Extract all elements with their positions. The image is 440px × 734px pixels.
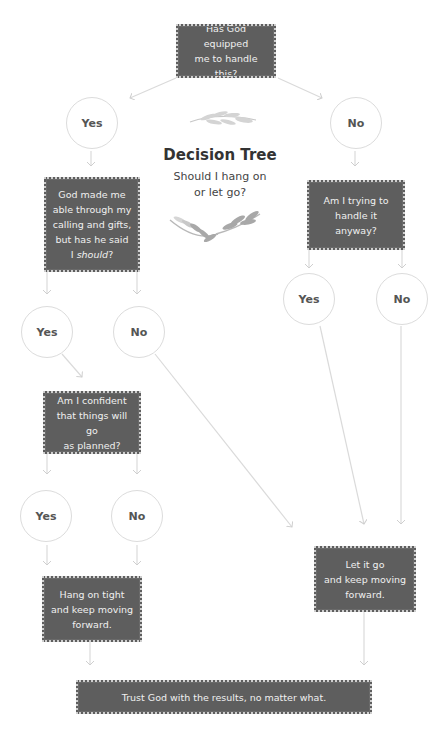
answer-no-2-right: No [376, 273, 428, 325]
q-calling-line4: but has he said [56, 234, 129, 245]
answer-yes-2-left: Yes [21, 306, 73, 358]
subtitle-line1: Should I hang on [174, 170, 267, 183]
answer-no-2-left-label: No [131, 326, 148, 339]
root-question-box: Has God equippedme to handle this? [176, 24, 276, 78]
question-anyway-box: Am I trying tohandle it anyway? [307, 180, 405, 250]
q-calling-line5-suffix: ? [108, 249, 113, 260]
answer-no-2-right-label: No [394, 293, 411, 306]
answer-no-1-label: No [348, 117, 365, 130]
q-calling-line3: calling and gifts, [53, 219, 131, 230]
let-go-line2: and keep moving [324, 574, 406, 585]
answer-yes-2-right: Yes [283, 273, 335, 325]
question-confident-box: Am I confident that things will go as pl… [43, 391, 141, 454]
q-confident-line3: as planned? [63, 440, 120, 451]
diagram-subtitle: Should I hang on or let go? [140, 169, 300, 201]
answer-no-3: No [111, 490, 163, 542]
answer-yes-3-label: Yes [36, 510, 57, 523]
answer-no-2-left: No [113, 306, 165, 358]
q-calling-line5-emphasis: should [77, 249, 108, 260]
answer-no-3-label: No [129, 510, 146, 523]
q-confident-line2: that things will go [57, 410, 127, 436]
q-confident-line1: Am I confident [57, 395, 126, 406]
question-calling-box: God made me able through my calling and … [44, 177, 140, 272]
q-anyway-line2: handle it anyway? [335, 210, 377, 236]
final-conclusion-text: Trust God with the results, no matter wh… [122, 690, 326, 705]
q-calling-line2: able through my [53, 204, 132, 215]
answer-yes-1: Yes [66, 97, 118, 149]
hang-on-line2: and keep moving [51, 604, 133, 615]
hang-on-line1: Hang on tight [59, 589, 124, 600]
root-question-line1: Has God equipped [204, 23, 248, 49]
leaf-decoration-bottom [166, 210, 262, 250]
answer-yes-2-left-label: Yes [37, 326, 58, 339]
answer-yes-1-label: Yes [82, 117, 103, 130]
outcome-hang-on-box: Hang on tight and keep moving forward. [42, 576, 142, 642]
answer-yes-2-right-label: Yes [299, 293, 320, 306]
root-question-line2: me to handle this? [194, 53, 257, 79]
answer-no-1: No [330, 97, 382, 149]
let-go-line1: Let it go [346, 559, 385, 570]
leaf-decoration-top [188, 108, 258, 130]
let-go-line3: forward. [345, 589, 384, 600]
diagram-title: Decision Tree [140, 146, 300, 164]
answer-yes-3: Yes [20, 490, 72, 542]
hang-on-line3: forward. [72, 619, 111, 630]
subtitle-line2: or let go? [194, 186, 246, 199]
q-calling-line1: God made me [58, 189, 125, 200]
final-conclusion-box: Trust God with the results, no matter wh… [76, 680, 372, 714]
q-anyway-line1: Am I trying to [323, 195, 388, 206]
outcome-let-go-box: Let it go and keep moving forward. [314, 546, 416, 612]
